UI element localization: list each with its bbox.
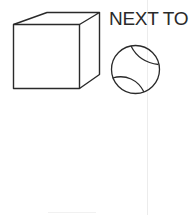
relation-label: NEXT TO [109, 9, 188, 29]
ball-icon [112, 46, 160, 94]
diagram-canvas [0, 0, 191, 215]
cube-icon [14, 13, 100, 89]
